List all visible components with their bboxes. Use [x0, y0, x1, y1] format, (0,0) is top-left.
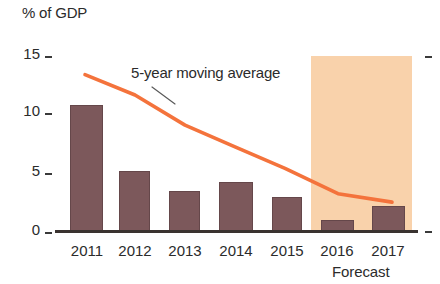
y-tick-label-5: 5: [4, 162, 40, 179]
y-tick-dash-right-10: [425, 56, 432, 58]
x-tick-label-2012: 2012: [109, 242, 161, 259]
y-tick-dash-10: [45, 113, 52, 115]
bar-2012: [119, 171, 150, 231]
y-tick-dash-5: [45, 173, 52, 175]
bar-2014: [219, 182, 253, 231]
annotation-leader-line: [152, 87, 175, 104]
y-tick-dash-0: [45, 232, 52, 234]
moving-average-annotation-label: 5-year moving average: [131, 64, 280, 81]
y-tick-label-10: 10: [4, 102, 40, 119]
bar-2015: [272, 197, 302, 231]
x-tick-label-2013: 2013: [159, 242, 211, 259]
y-tick-dash-right-0: [425, 231, 432, 233]
bar-2013: [169, 191, 200, 231]
x-tick-label-2011: 2011: [61, 242, 113, 259]
x-tick-label-2015: 2015: [261, 242, 313, 259]
chart-container: % of GDP 15 10 5 0 5-year moving average…: [0, 0, 440, 284]
x-tick-label-2017: 2017: [362, 242, 414, 259]
x-tick-label-2014: 2014: [210, 242, 262, 259]
x-tick-label-2016: 2016: [311, 242, 363, 259]
y-tick-label-0: 0: [4, 221, 40, 238]
x-axis-baseline: [55, 230, 418, 233]
y-tick-dash-15: [45, 56, 52, 58]
bar-2011: [70, 105, 103, 231]
bar-2017: [372, 206, 405, 231]
y-tick-label-15: 15: [4, 45, 40, 62]
chart-axis-title: % of GDP: [22, 4, 87, 21]
forecast-caption: Forecast: [332, 263, 390, 280]
